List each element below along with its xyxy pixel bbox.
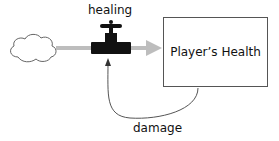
cloud-icon: [11, 34, 57, 61]
stock-players-health: Player’s Health: [163, 17, 268, 87]
feedback-arrowhead: [105, 58, 111, 66]
flow-arrowhead: [146, 40, 162, 56]
valve-icon: [91, 20, 131, 54]
flow-label-healing: healing: [88, 3, 132, 17]
stock-label: Player’s Health: [170, 45, 261, 59]
feedback-label-damage: damage: [133, 121, 182, 135]
